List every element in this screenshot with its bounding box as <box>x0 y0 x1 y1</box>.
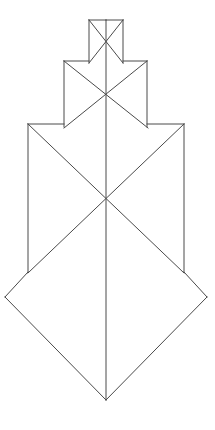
geometric-figure-canvas <box>0 0 215 430</box>
figure-background <box>0 0 215 430</box>
